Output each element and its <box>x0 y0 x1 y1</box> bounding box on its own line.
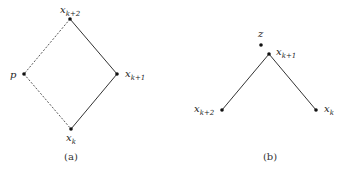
caption-b: (b) <box>263 151 277 162</box>
node-z <box>259 43 263 47</box>
label-xk2: xk+2 <box>60 4 81 18</box>
node-xk2 <box>68 17 72 21</box>
caption-a: (a) <box>64 151 78 162</box>
label-xk: xk <box>66 132 76 146</box>
panel-a: xk+2 p xk+1 xk (a) <box>10 4 145 162</box>
label-xk1: xk+1 <box>125 68 145 82</box>
label-xk1: xk+1 <box>276 46 296 60</box>
label-z: z <box>257 28 264 39</box>
node-xk1 <box>115 72 119 76</box>
edge-xk1-xk2 <box>222 54 269 110</box>
label-xk: xk <box>324 103 334 117</box>
node-xk1 <box>267 52 271 56</box>
node-xk <box>314 108 318 112</box>
edge-xk1-xk <box>269 54 316 110</box>
node-xk2 <box>220 108 224 112</box>
label-p: p <box>10 69 17 80</box>
node-xk <box>69 127 73 131</box>
edge-p-xk-dashed <box>24 74 71 129</box>
node-p <box>22 72 26 76</box>
label-xk2: xk+2 <box>194 103 215 117</box>
diagram-canvas: xk+2 p xk+1 xk (a) z xk+1 xk+2 xk (b) <box>0 0 342 173</box>
edge-xk2-xk1 <box>70 19 117 74</box>
panel-b: z xk+1 xk+2 xk (b) <box>194 28 334 162</box>
edge-xk2-p-dashed <box>24 19 70 74</box>
edge-xk1-xk <box>71 74 117 129</box>
